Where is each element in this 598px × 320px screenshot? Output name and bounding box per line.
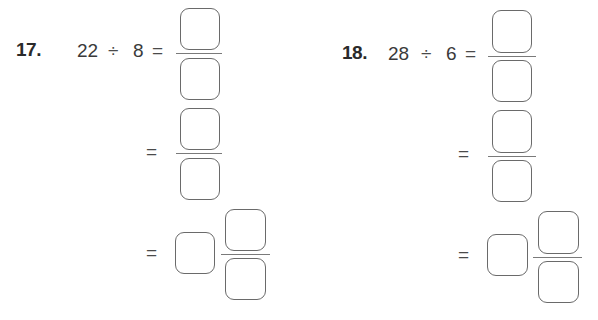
equals-sign: = [465,43,476,65]
denominator-input[interactable] [180,58,220,100]
dividend: 28 [388,43,409,65]
dividend: 22 [77,40,98,62]
divide-sign: ÷ [108,40,118,62]
fraction-bar [221,254,270,255]
equals-sign: = [458,244,469,266]
divisor: 8 [133,40,144,62]
fraction-bar [533,257,582,258]
denominator-input[interactable] [225,258,266,300]
numerator-input[interactable] [538,211,579,254]
divide-sign: ÷ [421,43,431,65]
numerator-input[interactable] [492,110,532,153]
equals-sign: = [458,143,469,165]
equals-sign: = [152,40,163,62]
equals-sign: = [146,141,157,163]
whole-number-input[interactable] [175,232,215,274]
numerator-input[interactable] [180,108,220,150]
denominator-input[interactable] [492,160,532,202]
numerator-input[interactable] [225,209,266,251]
problem-number: 17. [16,39,41,61]
fraction-bar [488,156,536,157]
divisor: 6 [446,43,457,65]
numerator-input[interactable] [492,10,532,53]
denominator-input[interactable] [180,158,220,200]
fraction-bar [176,53,222,54]
numerator-input[interactable] [180,8,220,50]
problem-number: 18. [342,42,367,64]
denominator-input[interactable] [538,261,579,303]
fraction-bar [176,153,222,154]
fraction-bar [488,56,536,57]
equals-sign: = [146,242,157,264]
denominator-input[interactable] [492,60,532,102]
whole-number-input[interactable] [487,234,528,276]
